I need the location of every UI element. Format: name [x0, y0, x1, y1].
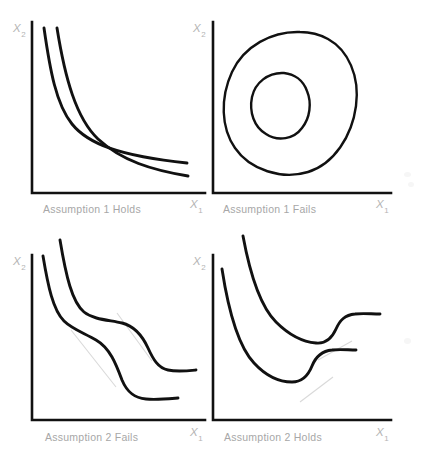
scan-speck-lower — [408, 182, 414, 187]
caption-assumption-2-holds: Assumption 2 Holds — [224, 431, 322, 443]
x-axis-subscript: 1 — [384, 206, 388, 215]
y-axis-variable: X — [13, 255, 21, 267]
panel-assumption-2-holds: X2 X1 Assumption 2 Holds — [180, 230, 431, 462]
y-axis-variable: X — [193, 255, 201, 267]
indifference-curve-outer-tr — [224, 32, 357, 175]
y-axis-subscript: 2 — [21, 263, 25, 272]
panel-top-right-graphic — [180, 0, 431, 231]
indifference-curve-inner-tr — [251, 73, 310, 139]
indifference-curve-lower-bl — [43, 256, 178, 399]
chord-lower-br — [300, 377, 333, 402]
indifference-curve-upper-br — [243, 236, 380, 343]
scan-speck-upper — [404, 172, 411, 177]
y-axis-label-bottom-right: X2 — [193, 255, 205, 270]
y-axis-subscript: 2 — [21, 30, 25, 39]
indifference-curve-lower-tl — [44, 28, 187, 163]
x-axis-label-bottom-right: X1 — [376, 426, 388, 441]
axes-top-right — [213, 22, 391, 193]
y-axis-subscript: 2 — [201, 30, 205, 39]
y-axis-label-top-right: X2 — [193, 22, 205, 37]
chord-upper-bl — [117, 313, 152, 361]
indifference-curve-upper-tl — [57, 28, 188, 176]
indifference-curve-upper-bl — [60, 240, 196, 371]
panel-bottom-right-graphic — [180, 230, 431, 462]
y-axis-variable: X — [13, 22, 21, 34]
y-axis-subscript: 2 — [201, 263, 205, 272]
x-axis-variable: X — [376, 426, 384, 438]
caption-assumption-2-fails: Assumption 2 Fails — [45, 431, 138, 443]
x-axis-variable: X — [376, 198, 384, 210]
y-axis-variable: X — [193, 22, 201, 34]
caption-assumption-1-holds: Assumption 1 Holds — [43, 203, 141, 215]
scan-speck-bottom — [404, 338, 411, 344]
x-axis-subscript: 1 — [384, 434, 388, 443]
figure-root: X2 X1 Assumption 1 Holds X2 X1 Assumptio… — [0, 0, 431, 462]
y-axis-label-bottom-left: X2 — [13, 255, 25, 270]
panel-assumption-1-fails: X2 X1 Assumption 1 Fails — [180, 0, 431, 231]
caption-assumption-1-fails: Assumption 1 Fails — [223, 203, 316, 215]
y-axis-label-top-left: X2 — [13, 22, 25, 37]
x-axis-label-top-right: X1 — [376, 198, 388, 213]
indifference-curve-lower-br — [222, 269, 356, 382]
